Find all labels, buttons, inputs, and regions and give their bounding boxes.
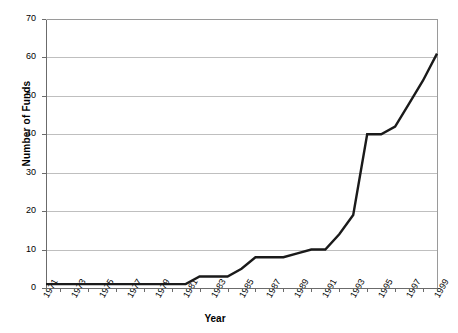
data-series-line [46,54,437,285]
plot-frame [47,20,438,289]
line-chart: Number of Funds Year 010203040506070 197… [0,0,458,333]
plot-area [0,0,458,333]
y-axis-ticks [42,20,46,289]
